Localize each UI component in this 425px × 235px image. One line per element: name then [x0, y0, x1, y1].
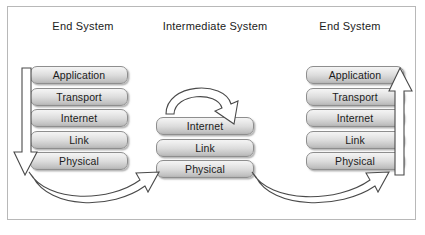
layer-box-left-application: Application	[30, 66, 128, 84]
layer-box-middle-internet: Internet	[156, 117, 254, 135]
layer-box-left-internet: Internet	[30, 109, 128, 127]
diagram-canvas: End System Intermediate System End Syste…	[0, 0, 425, 235]
column-heading-right-end-system: End System	[288, 20, 412, 32]
layer-box-middle-physical: Physical	[156, 160, 254, 178]
protocol-stack-middle: Internet Link Physical	[156, 117, 254, 182]
layer-box-left-physical: Physical	[30, 152, 128, 170]
column-heading-left-end-system: End System	[18, 20, 148, 32]
layer-box-left-transport: Transport	[30, 88, 128, 106]
layer-box-right-application: Application	[306, 66, 404, 84]
layer-box-left-link: Link	[30, 131, 128, 149]
layer-box-right-link: Link	[306, 131, 404, 149]
protocol-stack-right: Application Transport Internet Link Phys…	[306, 66, 404, 174]
layer-box-right-internet: Internet	[306, 109, 404, 127]
protocol-stack-left: Application Transport Internet Link Phys…	[30, 66, 128, 174]
layer-box-right-transport: Transport	[306, 88, 404, 106]
column-heading-intermediate-system: Intermediate System	[142, 20, 288, 32]
layer-box-right-physical: Physical	[306, 152, 404, 170]
layer-box-middle-link: Link	[156, 139, 254, 157]
